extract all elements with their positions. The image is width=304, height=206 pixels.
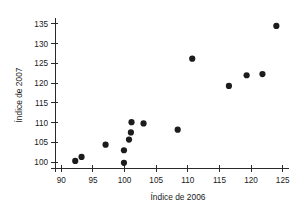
data-point [72,158,78,164]
x-tick-label: 120 [244,176,258,185]
data-point [102,142,108,148]
x-tick-label: 125 [276,176,290,185]
data-point-series [72,23,279,166]
x-tick-label: 110 [181,176,194,185]
y-axis [51,18,58,172]
data-point [175,127,181,133]
x-tick-label: 105 [149,176,163,185]
x-tick-label: 95 [88,176,98,185]
x-axis [51,165,289,172]
x-tick-label: 115 [213,176,226,185]
data-point [140,120,146,126]
data-point [121,160,127,166]
y-tick-label: 115 [35,99,48,108]
data-point [226,83,232,89]
y-tick-label: 125 [34,59,48,68]
data-point [121,147,127,153]
x-tick-label: 100 [118,176,132,185]
scatter-plot-figure: 100105110115120125130135 909510010511011… [0,0,304,206]
y-tick-label: 130 [34,40,48,49]
x-tick-label: 90 [57,176,67,185]
data-point [78,154,84,160]
data-point [244,72,250,78]
y-axis-title: Índice de 2007 [14,67,24,122]
x-axis-title: Índice de 2006 [151,192,206,202]
y-axis-tick-labels: 100105110115120125130135 [34,20,48,167]
x-axis-tick-labels: 9095100105110115120125 [57,176,290,185]
y-tick-label: 105 [34,138,48,147]
y-tick-label: 110 [35,119,48,128]
data-point [189,56,195,62]
y-tick-label: 120 [34,79,48,88]
data-point [126,136,132,142]
data-point [259,71,265,77]
y-tick-label: 135 [34,20,48,29]
data-point [128,129,134,135]
data-point [128,119,134,125]
chart-canvas: 100105110115120125130135 909510010511011… [0,0,304,206]
data-point [273,23,279,29]
y-tick-label: 100 [34,158,48,167]
